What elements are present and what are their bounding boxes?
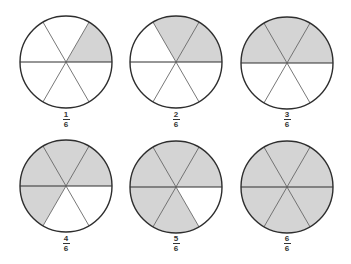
fraction-circle-3-6 — [241, 17, 333, 109]
fraction-circle-1-6 — [20, 16, 112, 108]
fraction-circle-5-6 — [130, 141, 222, 233]
numerator: 2 — [174, 110, 178, 119]
denominator: 6 — [64, 244, 68, 253]
fraction-label-5-6: 5 6 — [166, 234, 186, 253]
numerator: 5 — [174, 234, 178, 243]
fraction-label-3-6: 3 6 — [277, 110, 297, 129]
denominator: 6 — [174, 244, 178, 253]
fraction-circle-4-6 — [20, 140, 112, 232]
numerator: 6 — [285, 234, 289, 243]
denominator: 6 — [64, 120, 68, 129]
numerator: 3 — [285, 110, 289, 119]
fraction-label-4-6: 4 6 — [56, 234, 76, 253]
denominator: 6 — [174, 120, 178, 129]
fraction-circle-6-6 — [241, 141, 333, 233]
denominator: 6 — [285, 120, 289, 129]
fraction-label-2-6: 2 6 — [166, 110, 186, 129]
fraction-circle-2-6 — [130, 16, 222, 108]
denominator: 6 — [285, 244, 289, 253]
fraction-label-6-6: 6 6 — [277, 234, 297, 253]
numerator: 4 — [64, 234, 68, 243]
fraction-circles-diagram — [0, 0, 351, 264]
fraction-label-1-6: 1 6 — [56, 110, 76, 129]
numerator: 1 — [64, 110, 68, 119]
